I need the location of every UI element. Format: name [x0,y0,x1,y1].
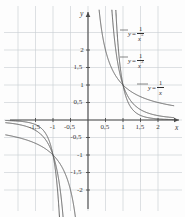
callout-fraction-0: 1 x5 [137,26,144,42]
callout-lhs-1: y [128,58,131,65]
curve-label-x3: y = 1 x3 [128,53,144,69]
grid-lines [4,6,182,211]
y-tick-label-7: -2 [77,187,83,194]
x-tick-label-5: 1,5 [136,124,145,131]
y-axis-name: y [80,10,83,18]
x-tick-label-6: 2 [156,124,160,131]
curve-label-x1: y = 1 x [148,80,164,96]
den-base-2: x [159,89,162,96]
y-tick-label-5: -1 [77,152,83,159]
x-tick-label-2: -0,5 [64,124,75,131]
callout-denominator-0: x5 [137,35,144,43]
callout-equals-0: = [132,31,136,38]
den-exponent-0: 5 [141,32,143,37]
x-tick-label-3: 0,5 [101,124,110,131]
curve-neg-1x5 [6,120,60,217]
x-axis-name: x [175,124,178,132]
y-tick-label-6: -1,5 [70,169,81,176]
callout-numerator-2: 1 [158,80,163,87]
callout-lhs-0: y [128,31,131,38]
x-tick-label-0: -1,5 [29,124,40,131]
y-tick-label-0: 2 [80,47,84,54]
curve-1x5 [116,10,174,119]
figure-canvas: -1,5-1-0,50,511,5221,510,5-0,5-1-1,5-2yx… [0,0,185,217]
y-tick-label-3: 0,5 [74,99,83,106]
y-tick-label-4: -0,5 [70,134,81,141]
function-graph-plot [0,0,185,217]
x-tick-label-1: -1 [50,124,56,131]
y-tick-label-1: 1,5 [74,64,83,71]
callout-lhs-2: y [148,85,151,92]
curve-neg-1x [6,135,77,217]
callout-denominator-1: x3 [137,62,144,70]
y-tick-label-2: 1 [80,82,84,89]
den-exponent-1: 3 [141,59,143,64]
callout-fraction-1: 1 x3 [137,53,144,69]
callout-fraction-2: 1 x [157,80,164,96]
callout-equals-2: = [152,85,156,92]
callout-denominator-2: x [158,89,163,97]
curve-label-x5: y = 1 x5 [128,26,144,42]
curve-group [6,10,174,217]
callout-equals-1: = [132,58,136,65]
x-tick-label-4: 1 [121,124,125,131]
